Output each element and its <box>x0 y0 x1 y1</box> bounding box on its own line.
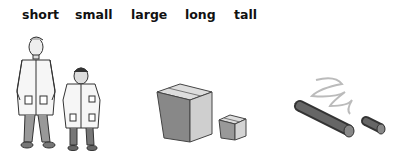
doctors-illustration <box>0 30 135 163</box>
word-long: long <box>185 7 216 22</box>
boxes-illustration <box>140 70 270 163</box>
small-box <box>219 115 246 140</box>
word-small: small <box>75 7 112 22</box>
large-box <box>157 84 212 142</box>
short-rod <box>366 121 385 134</box>
long-rod <box>300 106 354 137</box>
tall-doctor-figure <box>17 37 55 148</box>
word-short: short <box>22 7 59 22</box>
word-large: large <box>131 7 167 22</box>
rods-illustration <box>280 70 405 163</box>
word-tall: tall <box>234 7 257 22</box>
short-doctor-figure <box>63 68 100 151</box>
